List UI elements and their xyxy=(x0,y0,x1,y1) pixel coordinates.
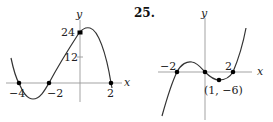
point-2-0 xyxy=(109,81,114,86)
x-axis-label: x xyxy=(124,76,131,89)
y-axis-label: y xyxy=(200,7,208,20)
x-axis-label: x xyxy=(257,65,264,78)
point-0-0 xyxy=(203,70,208,75)
x-tick-label-2: 2 xyxy=(107,87,114,100)
left-graph: y x −4 −2 2 24 12 xyxy=(6,8,131,102)
right-graph: 25. y x −2 2 (1, −6) xyxy=(134,6,264,120)
y-tick-label-24: 24 xyxy=(61,26,75,39)
x-tick-label-2: 2 xyxy=(225,60,232,73)
y-tick-label-12: 12 xyxy=(64,51,78,64)
x-tick-label-neg2: −2 xyxy=(160,60,176,73)
point-0-24 xyxy=(78,31,83,35)
point-neg4-0 xyxy=(17,81,22,86)
point-label-1-neg6: (1, −6) xyxy=(204,84,243,97)
x-tick-label-neg2: −2 xyxy=(47,87,63,100)
problem-number: 25. xyxy=(134,6,155,20)
x-tick-label-neg4: −4 xyxy=(9,87,25,100)
point-neg2-0 xyxy=(47,81,52,86)
y-axis-label: y xyxy=(75,8,83,21)
figure-canvas: y x −4 −2 2 24 12 25. y x −2 2 (1, −6) xyxy=(0,0,273,122)
point-1-neg6 xyxy=(217,78,222,83)
